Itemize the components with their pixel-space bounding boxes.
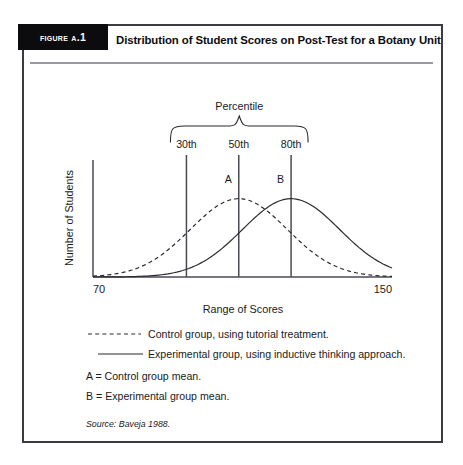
note-mean-b: B = Experimental group mean. <box>86 390 229 402</box>
title-divider <box>30 62 433 64</box>
figure-title: Distribution of Student Scores on Post-T… <box>116 25 453 55</box>
figure-source: Source: Baveja 1988. <box>86 419 170 429</box>
note-mean-a: A = Control group mean. <box>86 370 201 382</box>
figure-number-label: Figure A.1 <box>40 31 86 43</box>
legend-label-control: Control group, using tutorial treatment. <box>148 328 329 340</box>
figure-number-badge: Figure A.1 <box>18 24 108 50</box>
legend-label-experimental: Experimental group, using inductive thin… <box>148 348 405 360</box>
